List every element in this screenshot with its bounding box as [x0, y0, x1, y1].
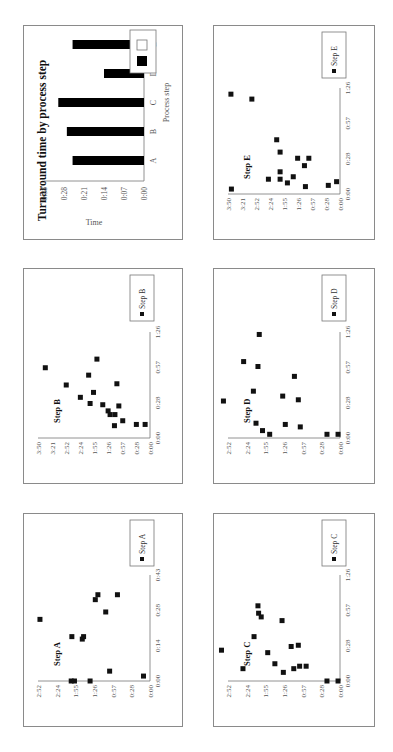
data-point — [114, 381, 119, 386]
data-point — [296, 397, 301, 402]
data-point — [249, 97, 254, 102]
data-point — [260, 428, 265, 433]
y-tick-label: 1:55 — [72, 685, 80, 698]
data-point — [257, 332, 262, 337]
data-point — [297, 664, 302, 669]
chart-title: Step A — [52, 641, 62, 666]
data-point — [120, 418, 125, 423]
data-point — [324, 432, 329, 437]
data-point — [298, 424, 303, 429]
data-point — [303, 184, 308, 189]
y-tick-label: 3:50 — [35, 442, 43, 455]
data-point — [283, 422, 288, 427]
y-tick-label: 3:21 — [239, 198, 247, 211]
scatter-panel-step-b: Step B0:000:280:571:261:552:242:523:213:… — [23, 268, 183, 484]
y-tick-label: 0:28 — [323, 198, 331, 211]
data-point — [251, 389, 256, 394]
legend-label: Step B — [138, 289, 147, 309]
legend-swatch-empty — [137, 40, 147, 50]
data-point — [336, 679, 341, 684]
y-tick-label: 2:52 — [225, 442, 233, 455]
data-point — [254, 421, 259, 426]
data-point — [324, 679, 329, 684]
chart-canvas: Step A0:000:280:571:261:552:242:520:000:… — [24, 514, 182, 726]
x-tick-label: 0:00 — [154, 674, 162, 687]
x-tick-label: 0:28 — [344, 396, 352, 409]
y-tick-label: 1:26 — [281, 685, 289, 698]
x-axis-label: Process step — [162, 83, 171, 122]
y-tick-label: 2:52 — [63, 442, 71, 455]
y-tick-label: 0:57 — [119, 442, 127, 455]
x-tick-label: 1:26 — [344, 568, 352, 581]
data-point — [278, 150, 283, 155]
legend-label: Step C — [330, 534, 339, 554]
x-tick-label: 0:28 — [154, 396, 162, 409]
y-tick-label: 1:55 — [91, 442, 99, 455]
legend-marker — [332, 557, 336, 561]
y-tick-label: 3:50 — [225, 198, 233, 211]
legend-marker — [140, 557, 144, 561]
data-point — [252, 634, 257, 639]
scatter-panel-step-a: Step A0:000:280:571:261:552:242:520:000:… — [23, 513, 183, 727]
y-tick-label: 0:28 — [128, 685, 136, 698]
y-tick-label: 1:55 — [262, 685, 270, 698]
y-tick-label: 2:52 — [35, 685, 43, 698]
data-point — [229, 187, 234, 192]
data-point — [255, 364, 260, 369]
data-point — [91, 390, 96, 395]
data-point — [116, 403, 121, 408]
data-point — [115, 592, 120, 597]
data-point — [334, 179, 339, 184]
y-tick-label: 0:28 — [60, 187, 69, 201]
x-tick-label: 0:28 — [344, 152, 352, 165]
data-point — [278, 169, 283, 174]
data-point — [272, 661, 277, 666]
x-tick-label: 0:14 — [154, 639, 162, 652]
data-point — [112, 423, 117, 428]
data-point — [94, 357, 99, 362]
y-tick-label: 0:38 — [40, 187, 49, 201]
data-point — [95, 592, 100, 597]
chart-title: Step E — [242, 155, 252, 179]
data-point — [64, 383, 69, 388]
data-point — [88, 401, 93, 406]
data-point — [43, 365, 48, 370]
data-point — [295, 156, 300, 161]
bar-a — [73, 156, 144, 165]
y-tick-label: 0:14 — [100, 187, 109, 201]
data-point — [86, 373, 91, 378]
data-point — [78, 395, 83, 400]
x-tick-label: 0:57 — [344, 604, 352, 617]
data-point — [266, 177, 271, 182]
data-point — [143, 422, 148, 427]
x-tick-label: 0:00 — [344, 187, 352, 200]
data-point — [267, 432, 272, 437]
data-point — [278, 177, 283, 182]
data-point — [291, 174, 296, 179]
data-point — [108, 412, 113, 417]
data-point — [134, 422, 139, 427]
y-tick-label: 0:57 — [309, 198, 317, 211]
legend-swatch-filled — [137, 56, 147, 66]
y-tick-label: 0:28 — [133, 442, 141, 455]
chart-canvas: Step C0:000:280:571:261:552:242:520:000:… — [214, 514, 374, 726]
y-tick-label: 0:57 — [110, 685, 118, 698]
data-point — [281, 670, 286, 675]
data-point — [285, 180, 290, 185]
legend-label: Step A — [138, 533, 147, 554]
x-tick-label: B — [149, 129, 158, 134]
data-point — [69, 634, 74, 639]
x-tick-label: C — [149, 100, 158, 105]
data-point — [289, 644, 294, 649]
data-point — [72, 679, 77, 684]
data-point — [88, 679, 93, 684]
chart-title: Step B — [52, 399, 62, 423]
scatter-panel-step-c: Step C0:000:280:571:261:552:242:520:000:… — [213, 513, 375, 727]
chart-canvas: Step E0:000:280:571:261:552:242:523:213:… — [214, 26, 374, 239]
x-tick-label: 0:57 — [344, 361, 352, 374]
data-point — [265, 650, 270, 655]
legend-marker — [332, 69, 336, 73]
x-tick-label: 0:43 — [154, 568, 162, 581]
data-point — [103, 609, 108, 614]
bar-chart-panel: Turnaround time by process step0:000:070… — [23, 25, 183, 240]
